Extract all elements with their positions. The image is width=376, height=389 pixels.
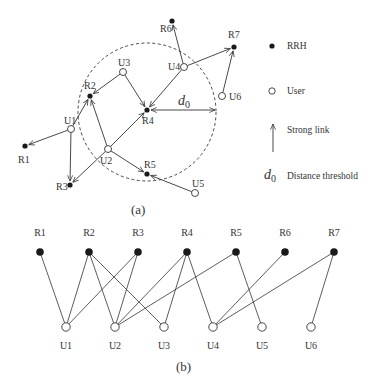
bipartite-user-node-u4 [209, 323, 217, 331]
bipartite-rrh-node-r7 [330, 248, 338, 256]
bipartite-user-label-u2: U2 [109, 340, 121, 351]
strong-link-u4-r7 [187, 48, 230, 65]
edge-r7-u4 [213, 252, 334, 327]
edge-r2-u1 [66, 252, 89, 327]
bipartite-rrh-node-r4 [183, 248, 191, 256]
strong-link-u1-r1 [29, 130, 68, 144]
bipartite-rrh-label-r5: R5 [230, 227, 242, 238]
bipartite-rrh-label-r1: R1 [34, 227, 46, 238]
bipartite-rrh-node-r5 [232, 248, 240, 256]
edge-r2-u3 [89, 252, 164, 327]
bipartite-user-node-u2 [111, 323, 119, 331]
panel-a-network-topology: d0 R1R2R3R4R5R6R7U1U2U3U4U5U6 (a) [18, 18, 241, 217]
user-label-u4: U4 [168, 61, 180, 72]
user-legend-icon [269, 88, 275, 94]
rrh-label-r4: R4 [142, 115, 154, 126]
bipartite-user-label-u4: U4 [207, 340, 219, 351]
bipartite-rrh-node-r1 [36, 248, 44, 256]
rrh-node-r1 [22, 143, 27, 148]
edge-r7-u6 [311, 252, 334, 327]
panel-b-bipartite-graph: R1R2R3R4R5R6R7U1U2U3U4U5U6 (b) [34, 227, 340, 374]
rrh-label-r6: R6 [160, 23, 172, 34]
legend: RRH User Strong link d0 Distance thresho… [264, 41, 358, 184]
strong-links-group [29, 25, 233, 192]
rrh-node-r3 [67, 182, 72, 187]
bipartite-user-label-u3: U3 [158, 340, 170, 351]
bipartite-edges-group [40, 252, 334, 327]
edge-r5-u5 [236, 252, 262, 327]
panel-a-nodes: R1R2R3R4R5R6R7U1U2U3U4U5U6 [18, 18, 241, 196]
rrh-legend-icon [269, 43, 274, 48]
user-node-u2 [105, 146, 112, 153]
user-label-u5: U5 [192, 178, 204, 189]
legend-label-user: User [287, 86, 306, 96]
rrh-label-r3: R3 [56, 181, 68, 192]
strong-link-u6-r7 [223, 51, 233, 93]
edge-r4-u4 [187, 252, 213, 327]
user-label-u2: U2 [100, 155, 112, 166]
rrh-node-r7 [231, 44, 236, 49]
rrh-user-association-figure: d0 R1R2R3R4R5R6R7U1U2U3U4U5U6 (a) RRH Us… [0, 0, 376, 389]
bipartite-user-node-u5 [258, 323, 266, 331]
bipartite-user-label-u6: U6 [305, 340, 317, 351]
panel-b-caption: (b) [176, 359, 191, 374]
edge-r1-u1 [40, 252, 66, 327]
strong-link-u2-r2 [91, 100, 107, 146]
bipartite-rrh-label-r2: R2 [83, 227, 95, 238]
bipartite-rrh-label-r4: R4 [181, 227, 193, 238]
user-node-u3 [120, 69, 127, 76]
rrh-label-r1: R1 [18, 154, 30, 165]
bipartite-rrh-label-r3: R3 [132, 227, 144, 238]
user-node-u1 [68, 126, 75, 133]
strong-link-u5-r5 [151, 175, 192, 191]
strong-link-u2-r4 [110, 113, 144, 147]
bipartite-user-label-u1: U1 [60, 340, 72, 351]
user-label-u6: U6 [229, 91, 241, 102]
strong-link-u1-r3 [70, 132, 71, 181]
bipartite-rrh-node-r6 [281, 248, 289, 256]
edge-r2-u2 [89, 252, 115, 327]
rrh-label-r5: R5 [144, 159, 156, 170]
user-node-u6 [219, 93, 226, 100]
bipartite-user-label-u5: U5 [256, 340, 268, 351]
strong-link-u4-r4 [150, 70, 182, 107]
strong-link-u3-r4 [125, 75, 145, 107]
bipartite-rrh-node-r2 [85, 248, 93, 256]
panel-a-caption: (a) [131, 202, 145, 217]
bipartite-rrh-label-r6: R6 [279, 227, 291, 238]
edge-r4-u3 [164, 252, 187, 327]
user-label-u1: U1 [64, 115, 76, 126]
user-node-u4 [181, 64, 188, 71]
rrh-label-r7: R7 [228, 29, 240, 40]
strong-link-u4-r6 [173, 25, 183, 64]
bipartite-user-node-u1 [62, 323, 70, 331]
strong-link-u3-r2 [93, 74, 120, 94]
bipartite-user-node-u6 [307, 323, 315, 331]
strong-link-u2-r5 [111, 151, 144, 172]
legend-label-distance-threshold: Distance threshold [287, 171, 358, 181]
rrh-node-r4 [144, 107, 149, 112]
rrh-node-r5 [144, 171, 149, 176]
panel-b-nodes: R1R2R3R4R5R6R7U1U2U3U4U5U6 [34, 227, 340, 351]
bipartite-rrh-label-r7: R7 [328, 227, 340, 238]
d0-label: d0 [178, 93, 190, 110]
bipartite-rrh-node-r3 [134, 248, 142, 256]
legend-label-rrh: RRH [287, 41, 307, 51]
user-label-u3: U3 [118, 57, 130, 68]
legend-label-strong-link: Strong link [287, 125, 330, 135]
rrh-label-r2: R2 [84, 80, 96, 91]
bipartite-user-node-u3 [160, 323, 168, 331]
d0-legend-icon: d0 [264, 167, 276, 184]
user-node-u5 [192, 190, 199, 197]
rrh-node-r2 [87, 93, 92, 98]
